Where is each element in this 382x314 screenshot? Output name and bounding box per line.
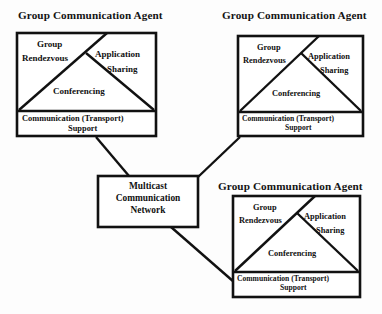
agent-bottom-right-rendezvous-line1: Group: [253, 203, 277, 212]
agent-top-right-title: Group Communication Agent: [222, 9, 367, 21]
connector-agent-top-left-to-network: [96, 137, 129, 176]
multicast-network-line1: Multicast: [98, 181, 198, 191]
agent-top-left-transport-line1: Communication (Transport): [22, 114, 124, 123]
agent-top-right-transport-line1: Communication (Transport): [242, 115, 334, 123]
agent-bottom-right-title: Group Communication Agent: [218, 180, 363, 192]
agent-top-right-rendezvous-line2: Rendezvous: [243, 56, 286, 65]
agent-top-left-application-line1: Application: [95, 50, 140, 60]
connector-agent-bottom-right-to-network: [171, 227, 234, 282]
diagram-canvas: Group Communication Agent Group Communic…: [0, 0, 382, 314]
agent-bottom-right-application-line1: Application: [304, 212, 346, 221]
agent-top-right-application-line1: Application: [308, 52, 350, 61]
multicast-network-label-stack: Multicast Communication Network: [98, 181, 198, 215]
agent-top-left-title: Group Communication Agent: [18, 9, 163, 21]
agent-bottom-right-transport-line2: Support: [280, 284, 307, 292]
agent-top-left-conferencing-label: Conferencing: [53, 87, 105, 97]
agent-top-left-transport-line2: Support: [68, 124, 97, 133]
connector-agent-top-right-to-network: [198, 137, 240, 177]
multicast-network-line3: Network: [98, 205, 198, 215]
agent-bottom-right-rendezvous-line2: Rendezvous: [239, 216, 282, 225]
agent-top-left-rendezvous-line2: Rendezvous: [22, 54, 68, 64]
agent-top-left-application-line2: Sharing: [107, 65, 138, 75]
agent-bottom-right-application-line2: Sharing: [316, 226, 344, 235]
agent-top-right-application-line2: Sharing: [320, 66, 348, 75]
multicast-network-line2: Communication: [98, 193, 198, 203]
agent-top-right-conferencing-label: Conferencing: [272, 89, 320, 98]
agent-top-left-rendezvous-line1: Group: [37, 40, 62, 50]
agent-top-right-transport-line2: Support: [285, 124, 312, 132]
agent-bottom-right-conferencing-label: Conferencing: [268, 249, 316, 258]
agent-bottom-right-transport-line1: Communication (Transport): [237, 275, 329, 283]
agent-top-right-rendezvous-line1: Group: [257, 43, 281, 52]
